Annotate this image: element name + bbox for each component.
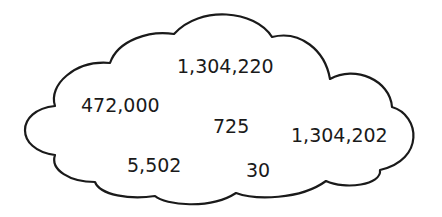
number-1304202: 1,304,202 (291, 126, 388, 145)
number-472000: 472,000 (81, 96, 160, 115)
number-1304220: 1,304,220 (177, 57, 274, 76)
cloud-outline (0, 0, 442, 217)
number-725: 725 (213, 117, 249, 136)
cloud-diagram: 1,304,220 472,000 725 1,304,202 5,502 30 (0, 0, 442, 217)
number-5502: 5,502 (127, 156, 181, 175)
number-30: 30 (246, 161, 270, 180)
